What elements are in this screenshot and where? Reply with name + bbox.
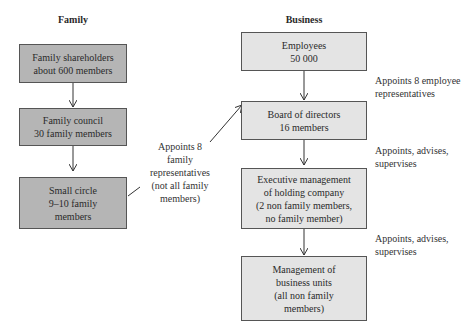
- box-label: Family shareholders about 600 members: [32, 51, 113, 77]
- executive-appoints-note: Appoints, advises, supervises: [375, 232, 449, 258]
- board-of-directors-box: Board of directors 16 members: [241, 101, 367, 140]
- box-label: Family council 30 family members: [34, 114, 112, 140]
- business-units-management-box: Management of business units (all non fa…: [241, 256, 367, 321]
- board-appoints-note: Appoints, advises, supervises: [375, 144, 449, 170]
- family-shareholders-box: Family shareholders about 600 members: [19, 44, 127, 83]
- box-label: Management of business units (all non fa…: [272, 263, 335, 315]
- family-appoints-note: Appoints 8 family representatives (not a…: [142, 140, 218, 205]
- box-label: Small circle 9–10 family members: [49, 184, 98, 223]
- employee-representatives-note: Appoints 8 employee representatives: [375, 74, 461, 100]
- box-label: Board of directors 16 members: [268, 108, 341, 134]
- executive-management-box: Executive management of holding company …: [241, 168, 367, 229]
- employees-box: Employees 50 000: [241, 32, 367, 71]
- box-label: Executive management of holding company …: [256, 173, 352, 225]
- family-council-box: Family council 30 family members: [19, 108, 127, 146]
- small-circle-box: Small circle 9–10 family members: [19, 177, 127, 229]
- box-label: Employees 50 000: [282, 39, 326, 65]
